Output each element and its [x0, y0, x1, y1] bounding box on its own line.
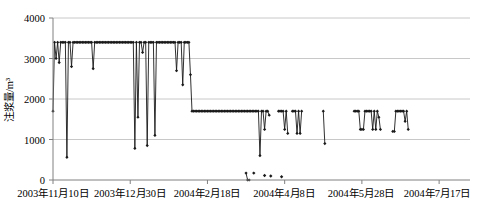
x-tick-label-1: 2003年12月30日 — [94, 187, 166, 199]
y-axis-title-group: 注浆量/m³ — [3, 78, 15, 122]
grouting-volume-line-chart: 4000 3000 2000 1000 0 2003年11月10日 2003年1… — [0, 0, 478, 206]
y-tick-label-3000: 3000 — [24, 54, 45, 65]
x-tick-label-3: 2004年4月8日 — [253, 187, 315, 199]
chart-container: 4000 3000 2000 1000 0 2003年11月10日 2003年1… — [0, 0, 478, 206]
x-tick-label-4: 2004年5月28日 — [328, 187, 395, 199]
chart-background — [0, 0, 478, 206]
y-tick-label-4000: 4000 — [24, 13, 45, 24]
x-tick-label-0: 2003年11月10日 — [17, 187, 89, 199]
x-tick-label-5: 2004年7月17日 — [404, 187, 471, 199]
y-tick-label-2000: 2000 — [24, 94, 45, 105]
y-axis-title: 注浆量/m³ — [3, 78, 15, 122]
y-tick-label-0: 0 — [40, 175, 45, 186]
y-tick-label-1000: 1000 — [24, 135, 45, 146]
x-tick-label-2: 2004年2月18日 — [174, 187, 241, 199]
